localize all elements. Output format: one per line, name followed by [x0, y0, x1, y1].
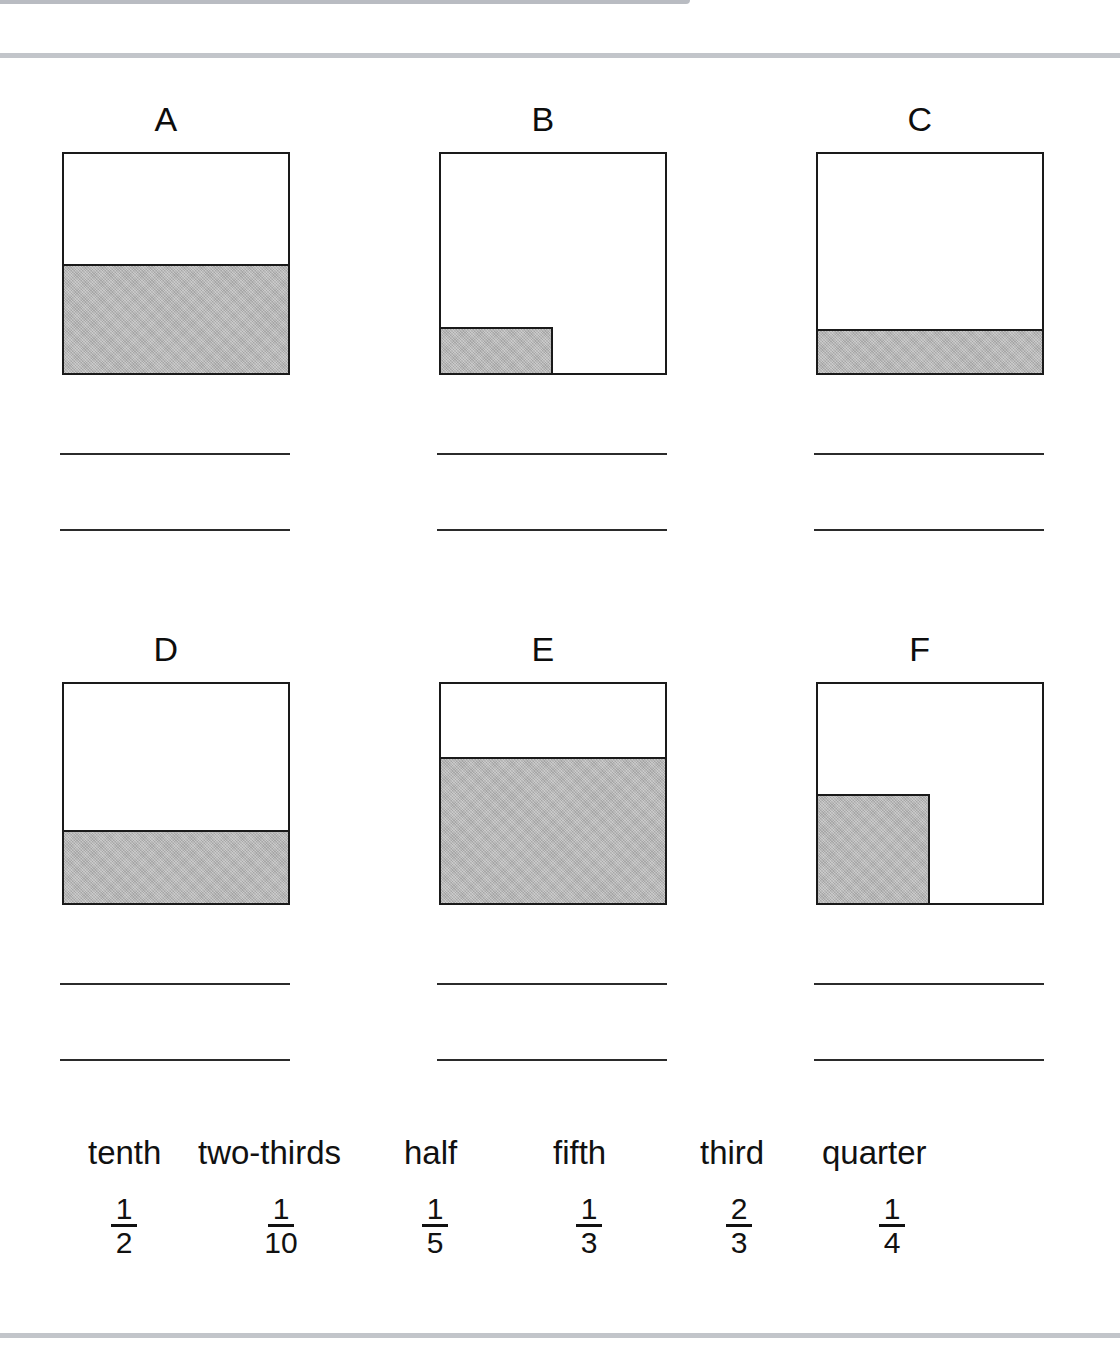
figure-square-a [62, 152, 290, 375]
figure-shaded-region-a [64, 264, 288, 374]
answer-line-e-fraction[interactable] [437, 1059, 667, 1061]
figure-cell-b: B [417, 58, 727, 588]
figure-row-2: D E F [0, 588, 1120, 1118]
fraction-numerator: 1 [860, 1195, 924, 1224]
figure-label-f: F [794, 632, 1046, 666]
word-bank: tenth two-thirds half fifth third quarte… [0, 1133, 1120, 1253]
answer-line-c-word[interactable] [814, 453, 1044, 455]
figure-label-e: E [417, 632, 669, 666]
figure-label-c: C [794, 102, 1046, 136]
figure-square-e [439, 682, 667, 905]
page-edge-top-stub [0, 0, 690, 4]
answer-line-f-fraction[interactable] [814, 1059, 1044, 1061]
fraction-denominator: 10 [249, 1227, 313, 1256]
word-bank-item-two-thirds[interactable]: two-thirds [198, 1133, 341, 1173]
fraction-numerator: 1 [403, 1195, 467, 1224]
fraction-one-half[interactable]: 1 2 [92, 1195, 156, 1256]
answer-line-a-word[interactable] [60, 453, 290, 455]
word-bank-item-quarter[interactable]: quarter [822, 1133, 927, 1173]
figure-square-f [816, 682, 1044, 905]
figure-cell-a: A [40, 58, 350, 588]
fraction-one-tenth[interactable]: 1 10 [249, 1195, 313, 1256]
figure-square-c [816, 152, 1044, 375]
word-bank-item-half[interactable]: half [404, 1133, 457, 1173]
answer-line-b-word[interactable] [437, 453, 667, 455]
fraction-denominator: 3 [707, 1227, 771, 1256]
word-bank-item-fifth[interactable]: fifth [553, 1133, 606, 1173]
figure-grid: A B C [0, 58, 1120, 1118]
figure-label-d: D [40, 632, 292, 666]
fraction-one-quarter[interactable]: 1 4 [860, 1195, 924, 1256]
figure-cell-e: E [417, 588, 727, 1118]
figure-label-a: A [40, 102, 292, 136]
fraction-denominator: 4 [860, 1227, 924, 1256]
answer-line-c-fraction[interactable] [814, 529, 1044, 531]
figure-cell-f: F [794, 588, 1104, 1118]
worksheet-sheet: A B C [0, 58, 1120, 1333]
fraction-one-fifth[interactable]: 1 5 [403, 1195, 467, 1256]
word-bank-words: tenth two-thirds half fifth third quarte… [0, 1133, 1120, 1183]
page-rule-bottom [0, 1333, 1120, 1338]
answer-line-a-fraction[interactable] [60, 529, 290, 531]
fraction-numerator: 1 [557, 1195, 621, 1224]
figure-shaded-region-d [64, 830, 288, 903]
word-bank-item-tenth[interactable]: tenth [88, 1133, 161, 1173]
answer-line-d-word[interactable] [60, 983, 290, 985]
fraction-denominator: 2 [92, 1227, 156, 1256]
figure-row-1: A B C [0, 58, 1120, 588]
figure-square-b [439, 152, 667, 375]
answer-line-d-fraction[interactable] [60, 1059, 290, 1061]
fraction-denominator: 3 [557, 1227, 621, 1256]
figure-cell-d: D [40, 588, 350, 1118]
figure-shaded-region-c [818, 329, 1042, 373]
answer-line-f-word[interactable] [814, 983, 1044, 985]
word-bank-fractions: 1 2 1 10 1 5 1 3 2 3 [0, 1195, 1120, 1265]
word-bank-item-third[interactable]: third [700, 1133, 764, 1173]
figure-shaded-region-e [441, 757, 665, 903]
fraction-numerator: 1 [92, 1195, 156, 1224]
fraction-two-thirds[interactable]: 2 3 [707, 1195, 771, 1256]
answer-line-b-fraction[interactable] [437, 529, 667, 531]
figure-square-d [62, 682, 290, 905]
fraction-one-third[interactable]: 1 3 [557, 1195, 621, 1256]
fraction-numerator: 1 [249, 1195, 313, 1224]
figure-shaded-region-b [441, 327, 553, 373]
figure-label-b: B [417, 102, 669, 136]
figure-cell-c: C [794, 58, 1104, 588]
fraction-denominator: 5 [403, 1227, 467, 1256]
figure-shaded-region-f [818, 794, 930, 904]
fraction-numerator: 2 [707, 1195, 771, 1224]
answer-line-e-word[interactable] [437, 983, 667, 985]
